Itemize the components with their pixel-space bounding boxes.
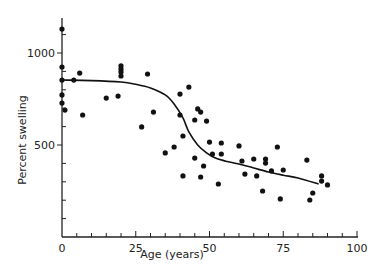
data-point <box>186 84 191 89</box>
y-axis-label: Percent swelling <box>16 95 29 185</box>
data-point <box>192 117 197 122</box>
data-point <box>59 100 64 105</box>
data-point <box>201 163 206 168</box>
data-point <box>59 64 64 69</box>
data-point <box>281 167 286 172</box>
data-point <box>59 92 64 97</box>
data-point <box>71 77 76 82</box>
y-tick-label: 500 <box>34 139 55 152</box>
data-point <box>172 144 177 149</box>
data-point <box>275 144 280 149</box>
data-point <box>139 124 144 129</box>
data-point <box>219 151 224 156</box>
data-point <box>198 174 203 179</box>
x-tick-label: 50 <box>203 242 217 255</box>
data-point <box>59 26 64 31</box>
data-point <box>104 95 109 100</box>
data-point <box>210 151 215 156</box>
data-point <box>177 91 182 96</box>
data-point <box>319 178 324 183</box>
data-point <box>180 173 185 178</box>
data-point <box>304 157 309 162</box>
data-point <box>145 71 150 76</box>
data-point <box>115 93 120 98</box>
data-point <box>177 112 182 117</box>
data-point <box>77 70 82 75</box>
data-point <box>59 77 64 82</box>
y-tick-label: 1000 <box>27 47 55 60</box>
x-axis-label: Age (years) <box>140 248 204 261</box>
data-point <box>207 139 212 144</box>
data-point <box>192 155 197 160</box>
data-point <box>242 171 247 176</box>
data-point <box>198 109 203 114</box>
data-point <box>269 168 274 173</box>
data-point <box>325 182 330 187</box>
data-point <box>180 133 185 138</box>
data-point <box>236 143 241 148</box>
data-point <box>254 173 259 178</box>
data-point <box>263 160 268 165</box>
scatter-chart: 50010000255075100 Age (years) Percent sw… <box>0 0 382 274</box>
fitted-curve-path <box>62 80 319 184</box>
data-point <box>239 158 244 163</box>
x-tick-label: 100 <box>347 242 368 255</box>
data-point <box>216 181 221 186</box>
fitted-curve <box>62 80 319 184</box>
data-point <box>319 173 324 178</box>
data-point <box>62 107 67 112</box>
data-point <box>151 109 156 114</box>
data-point <box>310 190 315 195</box>
x-tick-label: 75 <box>276 242 290 255</box>
data-point <box>118 73 123 78</box>
data-point <box>80 112 85 117</box>
data-point <box>278 196 283 201</box>
data-point <box>251 156 256 161</box>
x-tick-label: 0 <box>59 242 66 255</box>
data-point <box>307 197 312 202</box>
axes: 50010000255075100 <box>27 18 368 255</box>
data-point <box>204 118 209 123</box>
data-point <box>219 140 224 145</box>
data-point <box>260 188 265 193</box>
data-point <box>163 150 168 155</box>
